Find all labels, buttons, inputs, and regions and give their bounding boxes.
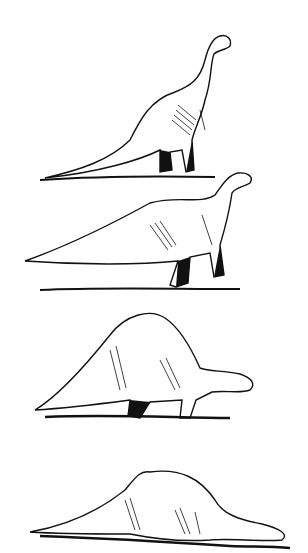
figure-lying-dinosaur <box>0 430 308 553</box>
figure-upright-dinosaur <box>0 20 308 185</box>
dinosaur-illustration <box>0 0 308 553</box>
figure-walking-dinosaur <box>0 165 308 300</box>
figure-crouching-dinosaur <box>0 300 308 430</box>
